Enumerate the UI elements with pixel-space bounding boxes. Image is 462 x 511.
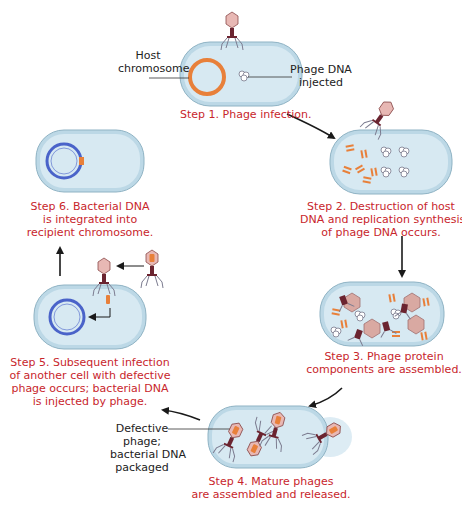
host-chromosome-label-line2: chromosome <box>118 62 178 75</box>
host-chromosome-label: Host chromosome <box>118 49 178 75</box>
step3-caption-line1: Step 3. Phage protein <box>306 350 462 363</box>
step1-caption-line1: Step 1. Phage infection. <box>180 108 310 121</box>
step3-cell <box>320 282 444 346</box>
defective-phage-line2: phage; <box>110 435 174 448</box>
phage-dna-injected-line2: injected <box>286 76 356 89</box>
step2-caption-line1: Step 2. Destruction of host <box>300 200 462 213</box>
step2-caption: Step 2. Destruction of host DNA and repl… <box>300 200 462 239</box>
step3-caption: Step 3. Phage protein components are ass… <box>306 350 462 376</box>
step2-caption-line3: of phage DNA occurs. <box>300 226 462 239</box>
step6-caption-line1: Step 6. Bacterial DNA <box>20 200 160 213</box>
step6-caption-line3: recipient chromosome. <box>20 226 160 239</box>
step5-caption-line4: is injected by phage. <box>0 395 180 408</box>
defective-phage-line4: packaged <box>110 461 174 474</box>
step4-caption: Step 4. Mature phages are assembled and … <box>186 475 356 501</box>
step6-caption: Step 6. Bacterial DNA is integrated into… <box>20 200 160 239</box>
step6-cell <box>36 130 144 192</box>
step6-caption-line2: is integrated into <box>20 213 160 226</box>
arrow-step3-to-step4 <box>310 388 342 406</box>
phage-dna-injected-label: Phage DNA injected <box>286 63 356 89</box>
step4-caption-line1: Step 4. Mature phages <box>186 475 356 488</box>
step1-caption: Step 1. Phage infection. <box>180 108 310 121</box>
defective-phage-label: Defective phage; bacterial DNA packaged <box>110 422 174 474</box>
step5-caption: Step 5. Subsequent infection of another … <box>0 356 180 408</box>
step2-caption-line2: DNA and replication synthesis <box>300 213 462 226</box>
phage-dna-injected-line1: Phage DNA <box>286 63 356 76</box>
host-chromosome-label-line1: Host <box>118 49 178 62</box>
defective-phage-line3: bacterial DNA <box>110 448 174 461</box>
step5-caption-line2: of another cell with defective <box>0 369 180 382</box>
defective-phage-line1: Defective <box>110 422 174 435</box>
step5-caption-line3: phage occurs; bacterial DNA <box>0 382 180 395</box>
step3-caption-line2: components are assembled. <box>306 363 462 376</box>
transduction-diagram: Host chromosome Phage DNA injected Step … <box>0 0 462 511</box>
step4-cell <box>168 406 352 468</box>
arrow-step4-to-step5 <box>163 410 200 420</box>
step5-cell <box>34 250 163 349</box>
step2-cell <box>330 96 452 194</box>
step5-caption-line1: Step 5. Subsequent infection <box>0 356 180 369</box>
diagram-graphics <box>0 0 462 511</box>
step4-caption-line2: are assembled and released. <box>186 488 356 501</box>
